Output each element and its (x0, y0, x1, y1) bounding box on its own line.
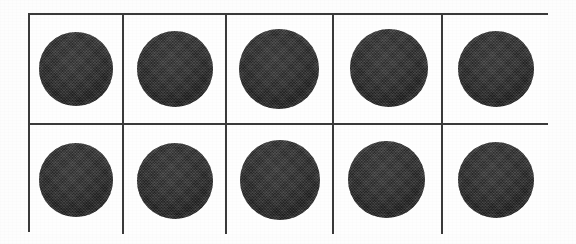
grid-cell-r2c5[interactable] (443, 125, 548, 234)
grid-cell-r1c5[interactable] (443, 15, 548, 125)
grid-cell-r2c4[interactable] (334, 125, 443, 234)
figure-plate (0, 0, 576, 244)
specimen-disc-r2c4[interactable] (348, 141, 425, 218)
grid-cell-r1c1[interactable] (30, 15, 124, 125)
grid-cell-r1c2[interactable] (124, 15, 227, 125)
specimen-disc-r1c1[interactable] (39, 32, 113, 106)
specimen-disc-r1c2[interactable] (137, 31, 213, 107)
grid-cell-r1c3[interactable] (227, 15, 334, 125)
grid-cell-r2c1[interactable] (30, 125, 124, 234)
specimen-disc-r1c5[interactable] (458, 31, 534, 107)
specimen-disc-r2c3[interactable] (240, 140, 320, 220)
grid-cell-r1c4[interactable] (334, 15, 443, 125)
grid-cell-r2c3[interactable] (227, 125, 334, 234)
specimen-grid (28, 13, 548, 232)
specimen-disc-r2c1[interactable] (39, 143, 113, 217)
specimen-disc-r2c5[interactable] (458, 142, 534, 218)
specimen-disc-r2c2[interactable] (137, 143, 213, 219)
grid-cell-r2c2[interactable] (124, 125, 227, 234)
specimen-disc-r1c3[interactable] (239, 29, 319, 109)
specimen-disc-r1c4[interactable] (350, 29, 428, 107)
